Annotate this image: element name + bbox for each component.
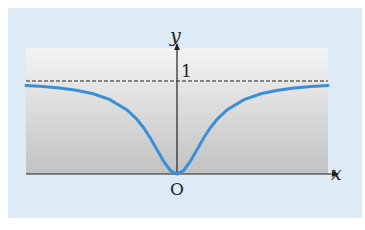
y-axis-label: y	[169, 24, 181, 46]
y-tick-1: 1	[181, 61, 192, 81]
origin-label: O	[170, 179, 184, 199]
x-axis-label: x	[331, 162, 342, 184]
function-plot: y 1 x O	[0, 0, 365, 230]
